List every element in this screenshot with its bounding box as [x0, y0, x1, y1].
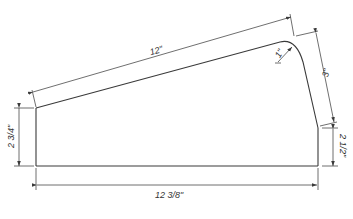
dimension-right-slant: 3": [316, 33, 334, 122]
label-fillet-radius: 1": [273, 47, 286, 60]
dimension-right-height: 2 1/2": [333, 129, 348, 166]
technical-drawing: 12" 3" 1" 2 3/4" 2 1/2" 12 3/8": [0, 0, 353, 219]
label-right-height: 2 1/2": [338, 133, 348, 158]
panel-outline: [36, 41, 318, 166]
dimension-bottom-width: 12 3/8": [37, 185, 317, 200]
label-right-slant: 3": [320, 67, 332, 78]
fillet-radius-leader: 1": [273, 47, 292, 63]
label-top-slant: 12": [149, 44, 165, 57]
dimension-top-slant: 12": [33, 17, 291, 92]
label-bottom-width: 12 3/8": [155, 190, 184, 200]
dimension-left-height: 2 3/4": [6, 108, 19, 166]
extension-lines: [14, 14, 338, 190]
label-left-height: 2 3/4": [6, 124, 16, 149]
